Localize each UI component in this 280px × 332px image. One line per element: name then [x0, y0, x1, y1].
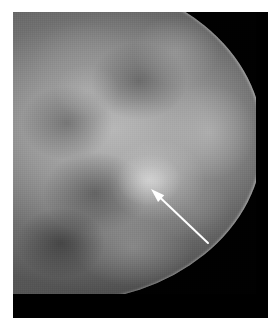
page-margin-bottom	[0, 318, 280, 332]
annotation-layer	[13, 12, 268, 318]
arrow-shaft	[159, 197, 208, 243]
mammogram-figure	[0, 0, 280, 332]
page-margin-right	[268, 0, 280, 332]
breast-radiograph[interactable]	[13, 12, 268, 318]
lesion-pointer-arrow	[151, 189, 208, 243]
page-margin-left	[0, 0, 13, 332]
page-margin-top	[0, 0, 280, 12]
